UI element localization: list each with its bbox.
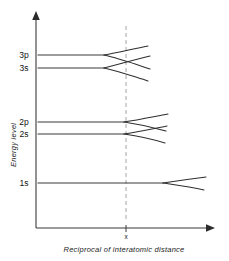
level-label-3s: 3s	[20, 63, 29, 73]
level-group-3p	[38, 46, 150, 69]
energy-level-band-diagram: 3p 3s 2p 2s 1s Energy level Reciprocal o…	[0, 0, 229, 261]
level-group-3s	[38, 56, 150, 81]
level-label-2s: 2s	[20, 129, 29, 139]
x-marker-tick-label: x	[124, 233, 128, 240]
level-label-1s: 1s	[20, 178, 29, 188]
x-axis-title: Reciprocal of interatomic distance	[63, 245, 184, 254]
up-arrow-icon	[32, 11, 40, 20]
level-group-2s	[38, 126, 167, 143]
level-group-2p	[38, 114, 168, 131]
right-arrow-icon	[206, 224, 215, 231]
level-label-3p: 3p	[19, 50, 29, 60]
level-group-1s	[38, 177, 206, 190]
y-axis	[32, 11, 40, 228]
level-label-2p: 2p	[19, 117, 29, 127]
diagram-canvas: 3p 3s 2p 2s 1s Energy level Reciprocal o…	[0, 0, 229, 261]
y-axis-title: Energy level	[9, 123, 18, 167]
